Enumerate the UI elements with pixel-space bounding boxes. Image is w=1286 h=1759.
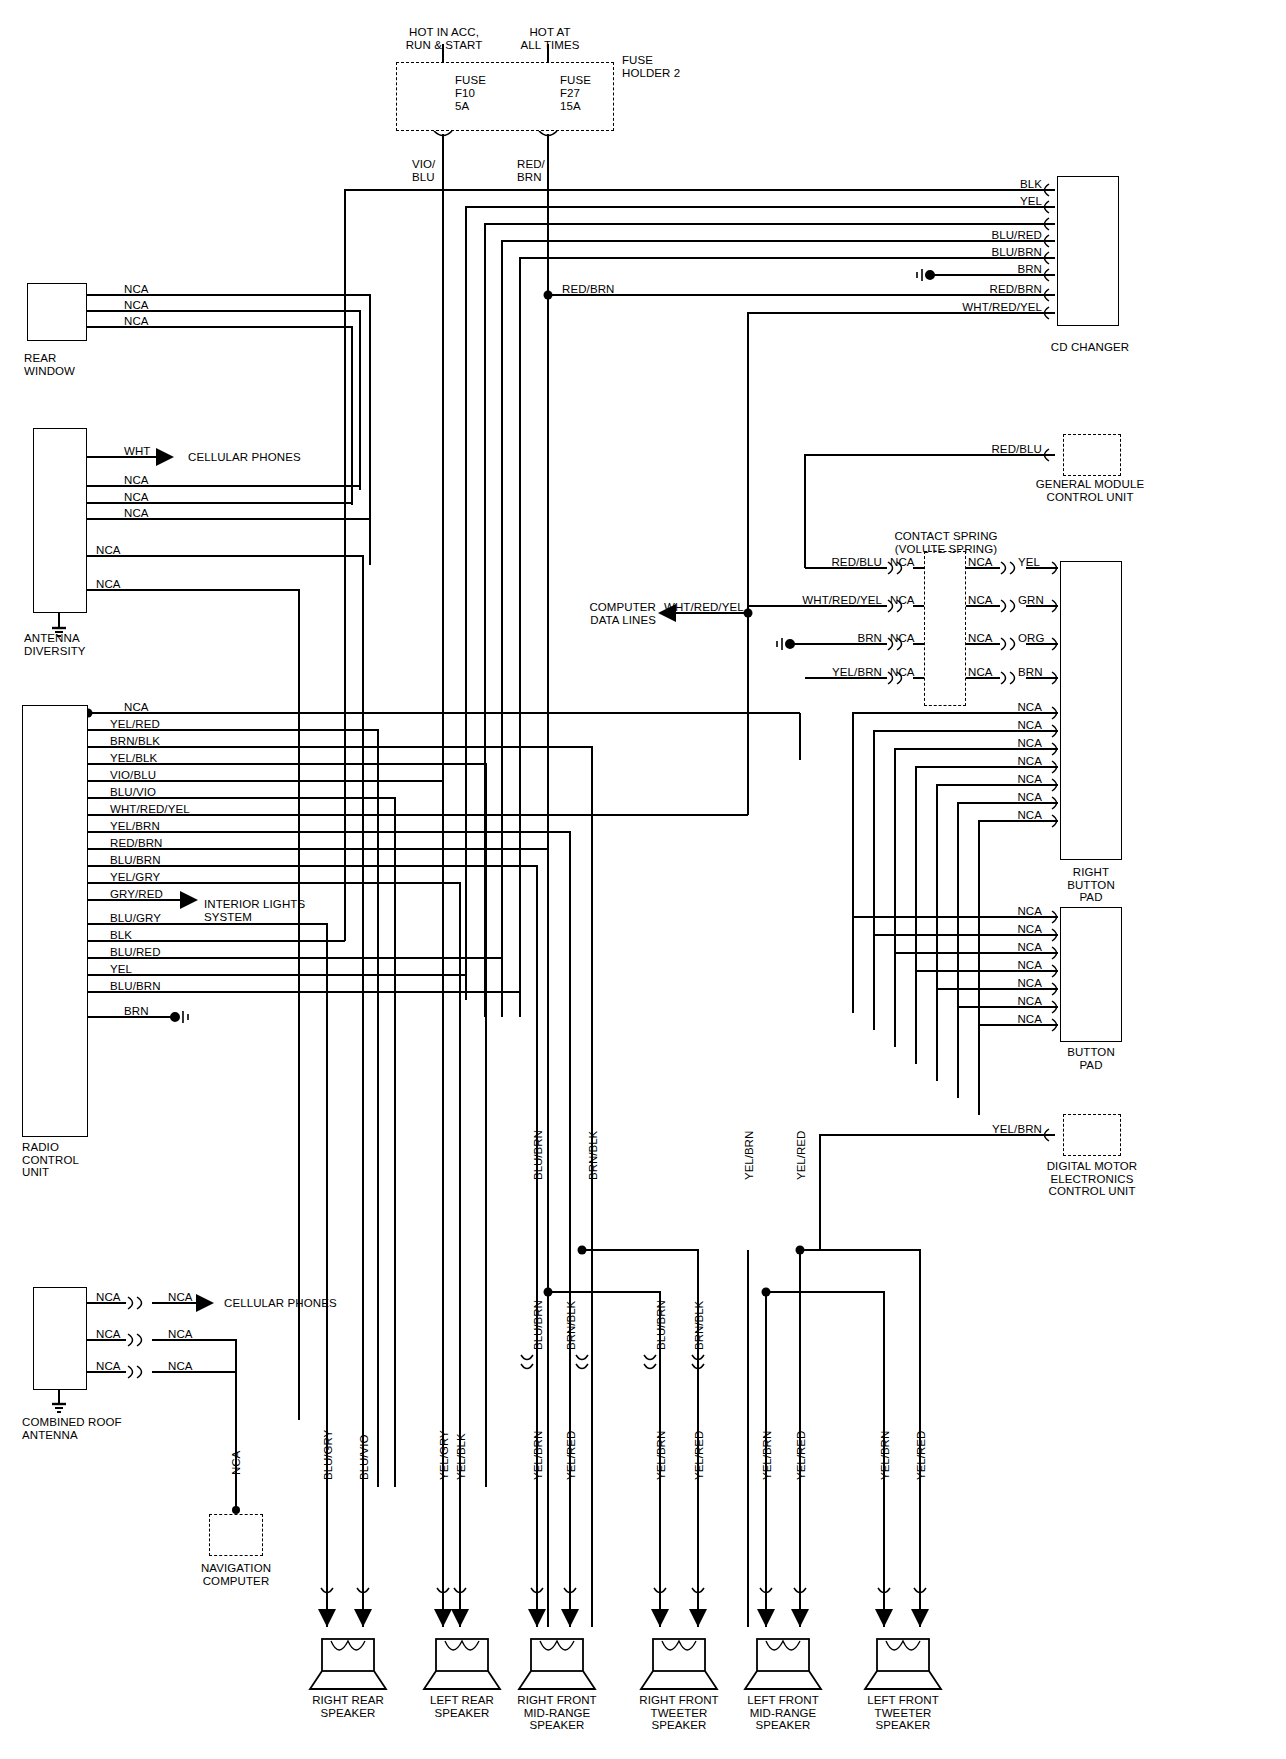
cellular-phones-top-label: CELLULAR PHONES xyxy=(188,451,301,464)
contact-spring-row-2-mid-left: NCA xyxy=(890,594,915,607)
speaker-wire-lft-1: YEL/BRN xyxy=(879,1431,891,1480)
navigation-wire-label: NCA xyxy=(230,1451,242,1475)
wiring-diagram-sheet: HOT IN ACC, RUN & START HOT AT ALL TIMES… xyxy=(0,0,1286,1759)
button-pad-wire-1: NCA xyxy=(950,905,1042,918)
fuse-f10-rating: 5A xyxy=(455,100,469,113)
speaker-wire-lr-1: YEL/GRY xyxy=(438,1430,450,1480)
right-button-pad-wire-3: NCA xyxy=(950,737,1042,750)
speaker-wire-rft-1: YEL/BRN xyxy=(655,1431,667,1480)
contact-spring-row-1-right: YEL xyxy=(1018,556,1040,569)
fuse-f27-output-wire-label: RED/ BRN xyxy=(517,158,545,183)
radio-wire-1: NCA xyxy=(124,701,149,714)
cd-changer-wire-2: YEL xyxy=(930,195,1042,208)
general-module-control-unit-label: GENERAL MODULE CONTROL UNIT xyxy=(1000,478,1180,503)
right-front-tweeter-speaker-label: RIGHT FRONT TWEETER SPEAKER xyxy=(619,1694,739,1732)
button-pad-wire-6: NCA xyxy=(950,995,1042,1008)
right-button-pad-label: RIGHT BUTTON PAD xyxy=(1056,866,1126,904)
button-pad-wire-4: NCA xyxy=(950,959,1042,972)
cd-changer-wire-5: BLU/BRN xyxy=(930,246,1042,259)
fuse-holder-box xyxy=(396,62,614,131)
computer-data-lines-label: COMPUTER DATA LINES xyxy=(530,601,656,626)
speaker-wire-lr-2: YEL/BLK xyxy=(455,1433,467,1480)
cellular-phones-bottom-label: CELLULAR PHONES xyxy=(224,1297,337,1310)
radio-control-unit-box xyxy=(22,705,88,1137)
button-pad-wire-2: NCA xyxy=(950,923,1042,936)
contact-spring-row-3-left: BRN xyxy=(800,632,882,645)
contact-spring-row-1-left: RED/BLU xyxy=(790,556,882,569)
radio-wire-7: WHT/RED/YEL xyxy=(110,803,190,816)
roof-antenna-wire-2-left: NCA xyxy=(96,1328,121,1341)
contact-spring-row-2-right: GRN xyxy=(1018,594,1044,607)
right-rear-speaker-label: RIGHT REAR SPEAKER xyxy=(288,1694,408,1719)
fuse-f10-id: F10 xyxy=(455,87,475,100)
radio-wire-4: YEL/BLK xyxy=(110,752,157,765)
radio-wire-5: VIO/BLU xyxy=(110,769,156,782)
roof-antenna-wire-1-left: NCA xyxy=(96,1291,121,1304)
button-pad-wire-3: NCA xyxy=(950,941,1042,954)
contact-spring-row-2-left: WHT/RED/YEL xyxy=(770,594,882,607)
digital-motor-electronics-box xyxy=(1063,1114,1121,1156)
combined-roof-antenna-box xyxy=(33,1287,87,1390)
contact-spring-row-2-mid-right: NCA xyxy=(968,594,993,607)
interior-lights-label: INTERIOR LIGHTS SYSTEM xyxy=(204,898,305,923)
contact-spring-row-3-mid-left: NCA xyxy=(890,632,915,645)
red-brn-trunk-label: RED/BRN xyxy=(562,283,614,296)
digital-motor-electronics-label: DIGITAL MOTOR ELECTRONICS CONTROL UNIT xyxy=(1006,1160,1178,1198)
contact-spring-row-3-mid-right: NCA xyxy=(968,632,993,645)
roof-antenna-wire-3-right: NCA xyxy=(168,1360,193,1373)
contact-spring-box xyxy=(924,551,966,706)
contact-spring-row-4-left: YEL/BRN xyxy=(790,666,882,679)
antenna-diversity-wire-6: NCA xyxy=(96,578,121,591)
rear-window-label: REAR WINDOW xyxy=(24,352,75,377)
trunk-label-blu-brn: BLU/BRN xyxy=(532,1130,544,1180)
button-pad-box xyxy=(1060,907,1122,1042)
speaker-wire-rr-1: BLU/GRY xyxy=(322,1430,334,1480)
cd-changer-wire-6: BRN xyxy=(930,263,1042,276)
radio-control-unit-label: RADIO CONTROL UNIT xyxy=(22,1141,79,1179)
power-source-battery-label: HOT AT ALL TIMES xyxy=(488,26,612,51)
right-button-pad-wire-2: NCA xyxy=(950,719,1042,732)
left-front-mid-range-speaker-label: LEFT FRONT MID-RANGE SPEAKER xyxy=(723,1694,843,1732)
rear-window-wire-1: NCA xyxy=(124,283,149,296)
left-front-tweeter-speaker-label: LEFT FRONT TWEETER SPEAKER xyxy=(843,1694,963,1732)
navigation-computer-label: NAVIGATION COMPUTER xyxy=(176,1562,296,1587)
right-button-pad-wire-4: NCA xyxy=(950,755,1042,768)
right-button-pad-wire-1: NCA xyxy=(950,701,1042,714)
contact-spring-row-4-mid-left: NCA xyxy=(890,666,915,679)
speaker-wire-lfm-2: YEL/RED xyxy=(795,1431,807,1480)
antenna-diversity-wire-1: WHT xyxy=(124,445,150,458)
radio-wire-17: BLU/BRN xyxy=(110,980,161,993)
antenna-diversity-wire-4: NCA xyxy=(124,507,149,520)
computer-data-lines-wire-label: WHT/RED/YEL xyxy=(664,601,744,614)
radio-wire-12: GRY/RED xyxy=(110,888,163,901)
speaker-wire-rfm-1: YEL/BRN xyxy=(532,1431,544,1480)
roof-antenna-wire-1-right: NCA xyxy=(168,1291,193,1304)
fuse-f10-name: FUSE xyxy=(455,74,486,87)
radio-wire-15: BLU/RED xyxy=(110,946,161,959)
combined-roof-antenna-label: COMBINED ROOF ANTENNA xyxy=(22,1416,122,1441)
right-front-mid-range-speaker-label: RIGHT FRONT MID-RANGE SPEAKER xyxy=(497,1694,617,1732)
branch-label-rf-tw-brn-blk: BRN/BLK xyxy=(693,1301,705,1350)
radio-wire-16: YEL xyxy=(110,963,132,976)
cd-changer-wire-8: WHT/RED/YEL xyxy=(920,301,1042,314)
button-pad-label: BUTTON PAD xyxy=(1056,1046,1126,1071)
radio-wire-3: BRN/BLK xyxy=(110,735,160,748)
cd-changer-wire-7: RED/BRN xyxy=(930,283,1042,296)
button-pad-wire-5: NCA xyxy=(950,977,1042,990)
cd-changer-box xyxy=(1057,176,1119,326)
navigation-computer-box xyxy=(209,1514,263,1556)
fuse-f27-name: FUSE xyxy=(560,74,591,87)
antenna-diversity-wire-5: NCA xyxy=(96,544,121,557)
contact-spring-row-1-mid-left: NCA xyxy=(890,556,915,569)
speaker-wire-lfm-1: YEL/BRN xyxy=(761,1431,773,1480)
contact-spring-row-4-right: BRN xyxy=(1018,666,1043,679)
right-button-pad-wire-6: NCA xyxy=(950,791,1042,804)
antenna-diversity-box xyxy=(33,428,87,613)
speaker-wire-rfm-2: YEL/RED xyxy=(565,1431,577,1480)
radio-wire-8: YEL/BRN xyxy=(110,820,160,833)
cd-changer-wire-1: BLK xyxy=(930,178,1042,191)
cd-changer-wire-4: BLU/RED xyxy=(930,229,1042,242)
fuse-f27-rating: 15A xyxy=(560,100,581,113)
antenna-diversity-wire-3: NCA xyxy=(124,491,149,504)
fuse-holder-label: FUSE HOLDER 2 xyxy=(622,54,680,79)
